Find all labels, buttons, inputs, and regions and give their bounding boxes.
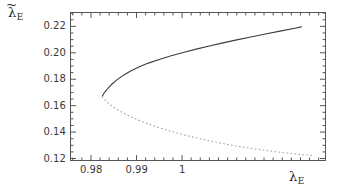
y-tick-label: 0.14 (44, 127, 66, 137)
y-tick-label: 0.12 (44, 154, 66, 164)
series-line-0 (102, 27, 301, 96)
x-axis-label-subscript: E (297, 176, 304, 186)
y-tick-label: 0.22 (44, 21, 66, 31)
y-tick-label: 0.18 (44, 74, 66, 84)
x-tick-label: 0.98 (80, 165, 102, 175)
tilde-accent: ~ (6, 0, 18, 11)
series-line-1 (102, 97, 314, 156)
y-tick-label: 0.20 (44, 48, 66, 58)
plot-frame (71, 13, 326, 161)
y-tick-label: 0.16 (44, 101, 66, 111)
x-axis-label: λE (289, 170, 304, 186)
y-axis-label: ~λE (8, 6, 23, 22)
y-axis-label-subscript: E (16, 12, 23, 22)
x-tick-label: 1 (179, 165, 185, 175)
x-tick-label: 0.99 (126, 165, 148, 175)
figure-canvas: ~λE λE 0.980.9910.120.140.160.180.200.22 (0, 0, 342, 195)
x-axis-label-symbol: λ (289, 169, 297, 184)
